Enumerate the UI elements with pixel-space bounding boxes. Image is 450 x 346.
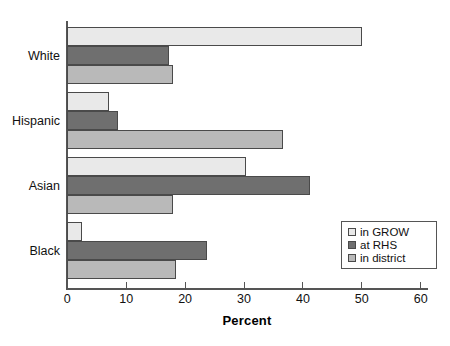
x-tick-label: 40 — [283, 292, 323, 306]
x-tick-mark — [244, 282, 245, 289]
bar-black-at-rhs — [67, 241, 207, 260]
legend-swatch-icon — [348, 228, 356, 236]
legend-swatch-icon — [348, 254, 356, 262]
legend-swatch-icon — [348, 241, 356, 249]
category-label-asian: Asian — [0, 179, 60, 193]
x-tick-mark — [185, 282, 186, 289]
bar-black-in-grow — [67, 222, 82, 241]
bar-asian-at-rhs — [67, 176, 310, 195]
bar-hispanic-at-rhs — [67, 111, 118, 130]
legend-item-in-district: in district — [348, 252, 431, 264]
bar-black-in-district — [67, 260, 175, 279]
legend-item-in-grow: in GROW — [348, 226, 431, 238]
chart-legend: in GROW at RHS in district — [341, 221, 437, 269]
bar-white-at-rhs — [67, 46, 169, 65]
x-tick-label: 60 — [401, 292, 441, 306]
x-tick-label: 0 — [47, 292, 87, 306]
legend-item-label: in GROW — [360, 226, 409, 238]
x-tick-mark — [126, 282, 127, 289]
x-axis-title: Percent — [66, 313, 428, 328]
bar-white-in-district — [67, 65, 172, 84]
category-label-black: Black — [0, 244, 60, 258]
bar-asian-in-district — [67, 195, 172, 214]
x-tick-label: 10 — [106, 292, 146, 306]
bar-hispanic-in-district — [67, 130, 283, 149]
x-tick-label: 50 — [342, 292, 382, 306]
x-tick-label: 30 — [224, 292, 264, 306]
x-tick-label: 20 — [165, 292, 205, 306]
bar-chart: 0102030405060 WhiteHispanicAsianBlack Pe… — [0, 0, 450, 346]
legend-item-label: in district — [360, 252, 405, 264]
x-tick-mark — [361, 282, 362, 289]
x-tick-mark — [420, 282, 421, 289]
legend-item-label: at RHS — [360, 239, 397, 251]
bar-asian-in-grow — [67, 157, 245, 176]
legend-item-at-rhs: at RHS — [348, 239, 431, 251]
x-tick-mark — [302, 282, 303, 289]
category-label-white: White — [0, 49, 60, 63]
x-axis-line — [66, 288, 428, 290]
category-label-hispanic: Hispanic — [0, 114, 60, 128]
x-tick-mark — [67, 282, 68, 289]
bar-white-in-grow — [67, 27, 362, 46]
bar-hispanic-in-grow — [67, 92, 108, 111]
